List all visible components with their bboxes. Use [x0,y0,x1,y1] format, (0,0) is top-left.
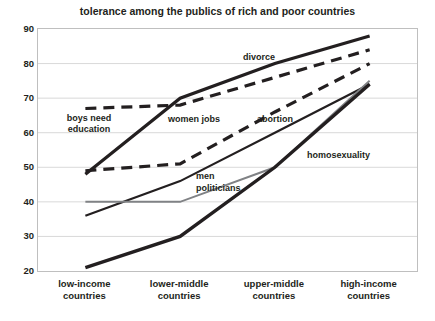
y-tick-label: 90 [4,23,34,34]
x-tick-label: high-incomecountries [314,278,424,302]
x-tick-label-line: lower-middle [124,278,234,290]
x-tick-label-line: countries [314,290,424,302]
series-label-abortion: abortion [257,114,293,125]
x-tick-label: upper-middlecountries [219,278,329,302]
series-label-divorce: divorce [243,52,275,63]
x-tick-label-line: countries [124,290,234,302]
chart-container: tolerance among the publics of rich and … [0,0,435,321]
y-tick-label: 40 [4,195,34,206]
x-tick-label-line: low-income [29,278,139,290]
y-tick-label: 50 [4,161,34,172]
x-tick-label-line: countries [29,290,139,302]
y-tick-label: 60 [4,126,34,137]
x-tick-label: low-incomecountries [29,278,139,302]
x-tick-label-line: countries [219,290,329,302]
series-label-politicians: politicians [196,183,241,194]
chart-title: tolerance among the publics of rich and … [0,5,435,17]
y-tick-label: 70 [4,92,34,103]
series-label-boys-need-education: boys need education [58,113,120,135]
x-tick-label-line: high-income [314,278,424,290]
series-line-homosexuality [85,84,369,267]
y-tick-label: 20 [4,265,34,276]
y-tick-label: 80 [4,57,34,68]
y-tick-label: 30 [4,230,34,241]
series-label-men: men [196,171,215,182]
x-tick-label: lower-middlecountries [124,278,234,302]
x-tick-label-line: upper-middle [219,278,329,290]
series-label-homosexuality: homosexuality [307,150,370,161]
y-axis: 9080706050403020 [0,0,34,321]
series-line-boys-need-education [85,50,369,109]
series-label-women-jobs: women jobs [168,114,220,125]
